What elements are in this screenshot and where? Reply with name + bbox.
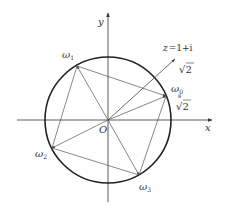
radius-label: √2 bbox=[176, 101, 189, 112]
root-label-w3: ω3 bbox=[139, 181, 151, 193]
side-w2-w1 bbox=[52, 66, 77, 148]
root-label-w1: ω1 bbox=[62, 49, 74, 61]
radius-w0 bbox=[108, 96, 166, 120]
vector-z-arrow bbox=[108, 59, 175, 120]
side-w1-w0 bbox=[77, 66, 166, 96]
complex-plane-diagram: y x O z=1+i √2 8 √2 ω0 ω1 ω2 ω3 bbox=[0, 0, 231, 214]
root-label-w2: ω2 bbox=[35, 148, 47, 160]
vector-z-label: z=1+i bbox=[162, 43, 193, 53]
radius-w1 bbox=[77, 66, 108, 120]
x-axis-label: x bbox=[205, 122, 211, 133]
root-label-w0: ω0 bbox=[171, 83, 183, 95]
side-w0-w3 bbox=[139, 96, 166, 175]
y-axis-label: y bbox=[97, 16, 104, 27]
vector-modulus-label: √2 bbox=[179, 64, 192, 75]
origin-label: O bbox=[99, 124, 107, 135]
